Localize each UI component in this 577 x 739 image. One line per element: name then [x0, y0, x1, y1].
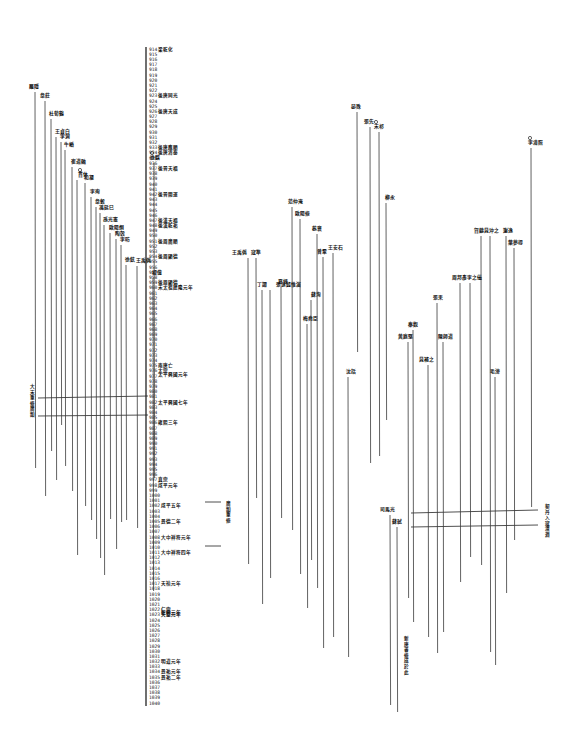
person-label: 和凝 — [83, 174, 94, 181]
person-label: 葉夢得 — [507, 239, 523, 246]
lifeline — [413, 330, 414, 622]
era-note: 明道元年 — [161, 658, 181, 665]
lifeline — [45, 101, 46, 496]
vertical-note-char: 淵 — [545, 531, 550, 538]
era-note: 大中祥符元年 — [161, 534, 191, 541]
lifeline — [248, 258, 249, 564]
person-label: 李清照 — [527, 139, 543, 146]
lifeline — [91, 197, 92, 520]
person-label: 黃庭堅 — [398, 333, 413, 340]
person-label: 馮延巳 — [99, 204, 114, 211]
era-note: 後周顯德 — [158, 253, 178, 260]
person-label: 周邦彥 — [452, 274, 467, 281]
lifeline — [311, 300, 312, 560]
person-label: 王安石 — [328, 244, 343, 251]
person-label: 宋祁 — [374, 123, 384, 130]
timeline-page: 9149159169179189199209219229239249259269… — [0, 0, 577, 739]
person-label: 晁補之 — [419, 356, 434, 363]
person-label: 司馬光 — [380, 506, 395, 513]
person-label: 楊億 — [151, 269, 162, 276]
year-label: 1040 — [149, 701, 160, 706]
era-note: 後唐同光 — [158, 92, 178, 99]
person-label: 李珣 — [89, 188, 100, 195]
lifeline — [262, 290, 263, 604]
person-label: 徐鉉 — [124, 256, 135, 263]
lifeline — [100, 213, 101, 558]
lifeline — [370, 127, 371, 463]
era-note: 後唐清泰 — [158, 149, 178, 156]
person-label: 歐陽修 — [295, 210, 310, 217]
lifeline — [121, 245, 122, 522]
era-note: 後晉開運 — [158, 191, 178, 198]
era-note: 雍熙三年 — [158, 419, 178, 426]
person-label: 夏竦 — [277, 278, 288, 285]
lifeline — [61, 142, 62, 425]
era-note: 梁乾化 — [157, 46, 173, 53]
era-note: 咸平元年 — [158, 482, 178, 489]
era-note: 景德二年 — [161, 518, 181, 525]
person-label: 李洞 — [59, 133, 70, 140]
lifeline — [65, 150, 66, 466]
lifeline — [437, 303, 438, 653]
lifeline — [428, 365, 429, 637]
person-label: 謝逸 — [503, 227, 513, 234]
lifeline — [317, 234, 318, 588]
person-label: 范仲淹 — [288, 198, 303, 205]
era-note: 宋太祖建隆元年 — [157, 284, 193, 291]
lifeline — [35, 92, 36, 468]
lifeline — [77, 180, 78, 555]
person-label: 賀鑄 — [473, 227, 484, 234]
person-label: 寇準 — [250, 249, 261, 256]
person-label: 韋莊 — [40, 92, 50, 99]
lifeline — [51, 119, 52, 451]
lifeline — [531, 148, 532, 507]
lifeline — [292, 207, 293, 530]
person-label: 陶穀 — [115, 230, 125, 237]
person-label: 李昉 — [119, 236, 130, 243]
lifeline — [443, 342, 444, 632]
vertical-note-char: 韻 — [30, 411, 35, 418]
lifeline — [357, 112, 358, 352]
person-label: 張先 — [364, 118, 374, 125]
timeline-diagram: 9149159169179189199209219229239249259269… — [0, 0, 577, 739]
lifeline — [85, 183, 86, 506]
lifeline — [270, 290, 271, 578]
lifeline — [323, 257, 324, 648]
person-label: 羅隱 — [29, 83, 39, 90]
lifeline — [460, 283, 461, 582]
person-label: 曾鞏 — [317, 248, 327, 255]
vertical-note-char: 修 — [225, 517, 231, 524]
person-label: 晁沖之 — [484, 227, 499, 234]
lifeline — [408, 342, 409, 598]
era-note: 太平興國元年 — [158, 371, 188, 378]
person-label: 沈括 — [346, 368, 356, 375]
era-note: 天禧元年 — [161, 580, 181, 587]
lifeline — [333, 253, 334, 637]
person-label: 蘇軾 — [391, 518, 402, 525]
era-note: 天聖元年 — [161, 611, 181, 618]
person-label: 張耒 — [433, 294, 443, 301]
lifeline — [470, 283, 471, 557]
lifeline — [256, 258, 257, 498]
lifeline — [490, 236, 491, 652]
person-label: 徐鍇 — [149, 154, 160, 161]
era-note: 大中祥符四年 — [161, 549, 191, 556]
era-note: 後唐天成 — [158, 108, 178, 115]
person-label: 崔道融 — [71, 158, 86, 165]
person-label: 梅堯臣 — [303, 315, 318, 322]
vertical-note-char: 此 — [404, 669, 409, 676]
connector-line — [38, 396, 148, 398]
person-label: 孫光憲 — [103, 216, 118, 223]
lifeline — [72, 167, 73, 491]
lifeline — [348, 377, 349, 657]
lifeline — [104, 225, 105, 575]
era-note: 後晉天福 — [158, 165, 178, 172]
lifeline — [126, 265, 127, 520]
era-note: 後漢乾祐 — [158, 222, 178, 229]
lifeline — [481, 236, 482, 565]
person-label: 韋縠 — [95, 198, 105, 205]
person-label: 杜荀鶴 — [49, 110, 64, 117]
lifeline — [386, 203, 387, 420]
person-label: 蔡襄 — [311, 225, 322, 232]
lifeline — [514, 248, 515, 540]
